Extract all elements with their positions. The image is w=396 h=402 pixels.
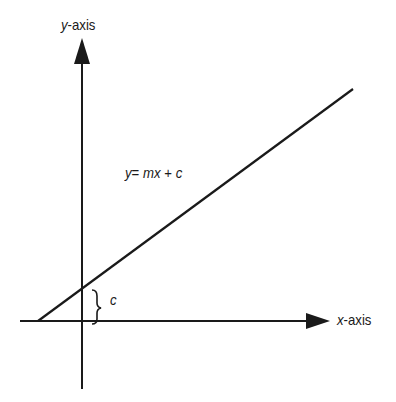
y-axis-arrow-icon [74, 38, 90, 64]
linear-function-line [38, 89, 353, 321]
y-axis-suffix: -axis [68, 16, 96, 33]
intercept-brace-icon [92, 290, 101, 324]
x-axis-label: x-axis [337, 311, 371, 328]
intercept-label: c [110, 291, 117, 308]
eq-equals: = [132, 164, 143, 181]
y-axis-label: y-axis [61, 16, 95, 33]
eq-plus: + [161, 164, 176, 181]
line-graph-diagram [0, 0, 396, 402]
x-axis-suffix: -axis [344, 311, 372, 328]
x-axis-arrow-icon [306, 313, 330, 329]
eq-m: m [143, 164, 154, 181]
equation-label: y= mx + c [125, 164, 182, 181]
eq-c: c [176, 164, 183, 181]
